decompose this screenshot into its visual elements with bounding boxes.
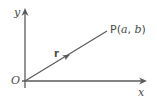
x-axis-label: x (138, 86, 145, 99)
y-axis-label: y (13, 6, 21, 19)
point-label-separator: , (128, 23, 135, 36)
y-axis (22, 8, 29, 88)
point-coordinate-b: b (135, 23, 142, 36)
point-label-prefix: P( (110, 23, 121, 36)
point-label: P(a, b) (110, 23, 146, 36)
vector-diagram: y x O r P(a, b) (0, 0, 157, 99)
x-axis (22, 78, 147, 85)
origin-label: O (11, 74, 20, 87)
point-label-suffix: ) (142, 23, 146, 36)
position-vector (25, 31, 107, 81)
vector-label: r (54, 48, 59, 59)
